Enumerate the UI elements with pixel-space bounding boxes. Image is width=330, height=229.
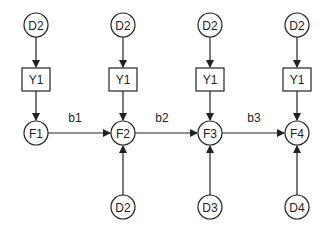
- box-4-label: Y1: [290, 73, 305, 87]
- box-1-label: Y1: [29, 73, 44, 87]
- flow-diagram: D2 Y1 F1 D2 Y1 F2 D2 D2 Y1 F3 D3: [0, 0, 330, 229]
- edge-label-b2: b2: [155, 111, 169, 125]
- box-2-label: Y1: [116, 73, 131, 87]
- node-top-4-label: D2: [289, 19, 305, 33]
- column-2: D2 Y1 F2 D2: [109, 13, 137, 219]
- node-top-1-label: D2: [28, 19, 44, 33]
- horizontal-edges: b1 b2 b3: [48, 111, 284, 133]
- column-4: D2 Y1 F4 D4: [283, 13, 311, 219]
- node-top-3-label: D2: [202, 19, 218, 33]
- diagram-canvas: D2 Y1 F1 D2 Y1 F2 D2 D2 Y1 F3 D3: [0, 0, 330, 229]
- node-mid-2-label: F2: [116, 127, 130, 141]
- edge-label-b3: b3: [247, 111, 261, 125]
- column-1: D2 Y1 F1: [22, 13, 50, 145]
- box-3-label: Y1: [203, 73, 218, 87]
- node-mid-4-label: F4: [290, 127, 304, 141]
- node-mid-3-label: F3: [203, 127, 217, 141]
- edge-label-b1: b1: [68, 111, 82, 125]
- column-3: D2 Y1 F3 D3: [196, 13, 224, 219]
- node-bottom-4-label: D4: [289, 201, 305, 215]
- node-bottom-2-label: D2: [115, 201, 131, 215]
- node-top-2-label: D2: [115, 19, 131, 33]
- node-bottom-3-label: D3: [202, 201, 218, 215]
- node-mid-1-label: F1: [29, 127, 43, 141]
